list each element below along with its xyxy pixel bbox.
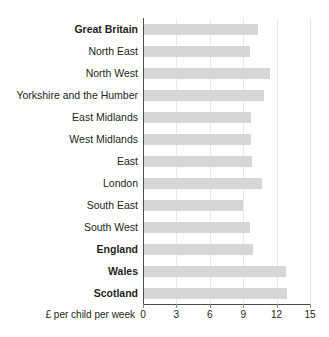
- x-axis-line: [143, 304, 311, 305]
- x-tick-label: 9: [231, 309, 255, 321]
- bar[interactable]: [143, 200, 243, 211]
- x-tick-mark: [310, 304, 311, 308]
- bar-chart: Great BritainNorth EastNorth WestYorkshi…: [0, 0, 329, 337]
- bar-row[interactable]: [143, 216, 310, 238]
- bar-row[interactable]: [143, 194, 310, 216]
- bar[interactable]: [143, 46, 250, 57]
- bar[interactable]: [143, 24, 258, 35]
- category-label: Wales: [0, 265, 138, 277]
- category-label: East: [0, 155, 138, 167]
- bar[interactable]: [143, 68, 270, 79]
- bar-row[interactable]: [143, 150, 310, 172]
- bar-row[interactable]: [143, 172, 310, 194]
- category-label: Scotland: [0, 287, 138, 299]
- category-label: West Midlands: [0, 133, 138, 145]
- bar[interactable]: [143, 156, 252, 167]
- bar[interactable]: [143, 112, 251, 123]
- category-label: Great Britain: [0, 23, 138, 35]
- bar-row[interactable]: [143, 260, 310, 282]
- x-tick-mark: [176, 304, 177, 308]
- bar[interactable]: [143, 244, 253, 255]
- gridline: [310, 18, 311, 304]
- bar-row[interactable]: [143, 282, 310, 304]
- x-axis-title: £ per child per week: [0, 309, 135, 321]
- bar-row[interactable]: [143, 84, 310, 106]
- category-label: East Midlands: [0, 111, 138, 123]
- category-label: North East: [0, 45, 138, 57]
- category-label: South East: [0, 199, 138, 211]
- bar[interactable]: [143, 288, 287, 299]
- x-tick-mark: [210, 304, 211, 308]
- x-tick-mark: [277, 304, 278, 308]
- bar[interactable]: [143, 90, 264, 101]
- bar-row[interactable]: [143, 238, 310, 260]
- bar-row[interactable]: [143, 18, 310, 40]
- bar[interactable]: [143, 222, 250, 233]
- category-label: England: [0, 243, 138, 255]
- y-axis-line: [143, 18, 144, 304]
- bar[interactable]: [143, 178, 262, 189]
- category-label: Yorkshire and the Humber: [0, 89, 138, 101]
- category-label: London: [0, 177, 138, 189]
- x-tick-mark: [143, 304, 144, 308]
- bar-row[interactable]: [143, 128, 310, 150]
- bar[interactable]: [143, 134, 251, 145]
- x-tick-label: 12: [265, 309, 289, 321]
- x-tick-label: 6: [198, 309, 222, 321]
- category-label: South West: [0, 221, 138, 233]
- bar-row[interactable]: [143, 62, 310, 84]
- bar-row[interactable]: [143, 40, 310, 62]
- x-tick-mark: [243, 304, 244, 308]
- x-tick-label: 3: [164, 309, 188, 321]
- bar-row[interactable]: [143, 106, 310, 128]
- x-tick-label: 15: [298, 309, 322, 321]
- plot-area: [143, 18, 310, 304]
- category-label: North West: [0, 67, 138, 79]
- bar[interactable]: [143, 266, 286, 277]
